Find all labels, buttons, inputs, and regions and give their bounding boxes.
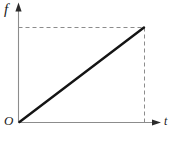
y-axis — [15, 3, 21, 124]
y-axis-label: f — [4, 2, 8, 17]
plot-canvas — [0, 0, 172, 143]
x-axis-arrowhead — [152, 119, 161, 125]
x-axis-label: t — [164, 115, 167, 127]
origin-label: O — [4, 114, 13, 127]
graph-figure: f O t — [0, 0, 172, 143]
x-axis — [19, 119, 162, 125]
y-axis-arrowhead — [15, 3, 21, 12]
data-line-f-vs-t — [20, 28, 145, 123]
